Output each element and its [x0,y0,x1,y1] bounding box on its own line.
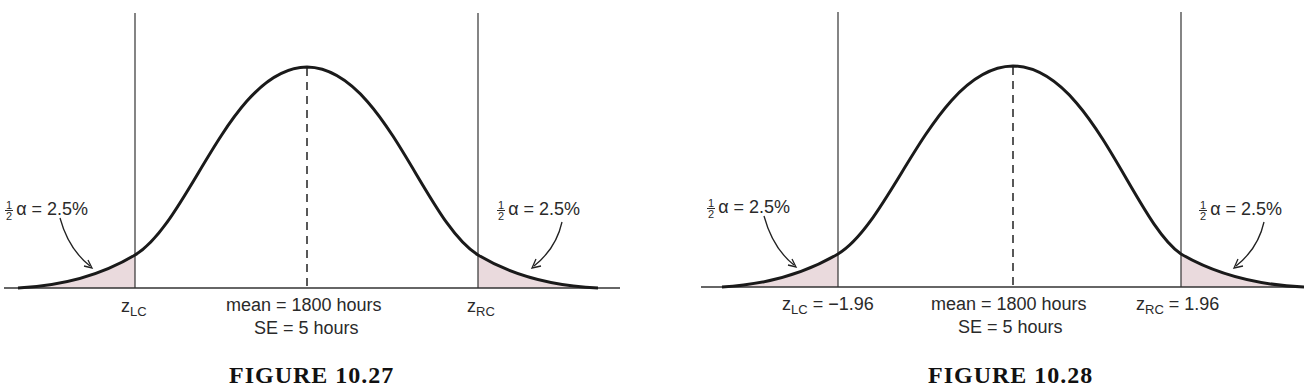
right-tail-label: 12α = 2.5% [1199,199,1282,221]
right-arrow [534,222,562,266]
right-tail-region [478,255,598,288]
half-fraction: 12 [707,198,715,219]
z-left-label: zLC [121,296,147,319]
left-tail-region [18,255,135,288]
right-tail-label: 12α = 2.5% [497,199,580,221]
figure-caption: FIGURE 10.28 [928,362,1093,387]
left-tail-label: 12α = 2.5% [707,197,790,219]
mean-label: mean = 1800 hours [931,294,1087,315]
left-tail-region [722,254,838,287]
se-label: SE = 5 hours [958,317,1063,338]
figure-10-28: 12α = 2.5% 12α = 2.5% zLC = −1.96 zRC = … [652,0,1304,378]
half-fraction: 12 [5,200,13,221]
z-left-label: zLC = −1.96 [782,294,874,317]
right-tail-region [1181,254,1304,287]
left-arrow [764,216,794,265]
right-arrow [1236,222,1264,266]
normal-curve [18,67,598,288]
half-fraction: 12 [1199,200,1207,221]
left-tail-label: 12α = 2.5% [5,199,88,221]
z-right-label: zRC [467,296,495,319]
se-label: SE = 5 hours [254,318,359,339]
half-fraction: 12 [497,200,505,221]
z-right-label: zRC = 1.96 [1136,294,1219,317]
figure-caption: FIGURE 10.27 [229,362,394,387]
left-arrow [60,218,90,266]
mean-label: mean = 1800 hours [226,295,382,316]
figure-10-27: 12α = 2.5% 12α = 2.5% zLC zRC mean = 180… [0,0,652,378]
